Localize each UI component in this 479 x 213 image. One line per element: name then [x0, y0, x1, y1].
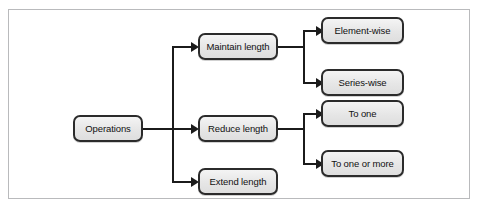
edge-reduce-stub — [277, 128, 305, 130]
node-to-one-label: To one — [349, 108, 377, 118]
node-maintain-length[interactable]: Maintain length — [198, 33, 278, 60]
node-extend-length[interactable]: Extend length — [198, 168, 278, 195]
node-element-wise[interactable]: Element-wise — [321, 17, 404, 44]
edge-operations-trunk-stub — [142, 128, 173, 130]
node-to-one[interactable]: To one — [321, 100, 404, 127]
node-extend-length-label: Extend length — [210, 176, 267, 186]
node-series-wise[interactable]: Series-wise — [321, 69, 404, 96]
node-to-one-or-more[interactable]: To one or more — [321, 150, 404, 177]
edge-maintain-stub — [277, 46, 305, 48]
edge-operations-trunk — [172, 46, 174, 183]
node-operations-label: Operations — [85, 123, 130, 133]
node-to-one-or-more-label: To one or more — [331, 158, 394, 168]
node-element-wise-label: Element-wise — [335, 25, 391, 35]
node-series-wise-label: Series-wise — [339, 77, 387, 87]
node-reduce-length[interactable]: Reduce length — [198, 115, 278, 142]
node-maintain-length-label: Maintain length — [207, 41, 270, 51]
node-operations[interactable]: Operations — [73, 115, 143, 142]
figure-frame: Operations Maintain length Reduce length… — [8, 9, 470, 199]
edge-maintain-riser — [303, 30, 305, 84]
edge-reduce-riser — [303, 113, 305, 165]
figure-caption — [9, 204, 309, 213]
node-reduce-length-label: Reduce length — [208, 123, 268, 133]
figure-screenshot: Operations Maintain length Reduce length… — [0, 0, 479, 213]
